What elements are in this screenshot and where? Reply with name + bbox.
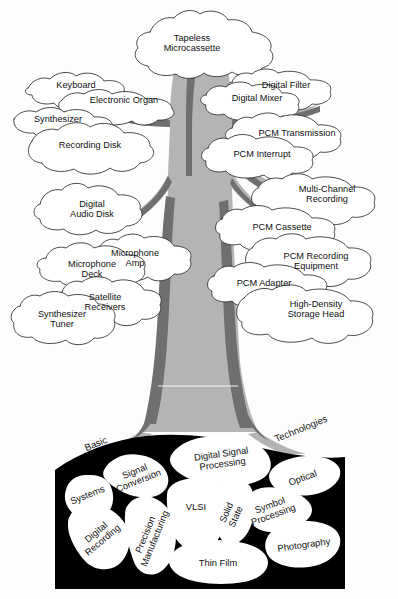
leaf-label-recording-disk: Recording Disk <box>59 140 122 150</box>
text-line: Microcassette <box>164 44 221 54</box>
text-line: Receivers <box>85 303 126 313</box>
leaf-label-high-density-storage-head: High-DensityStorage Head <box>288 299 345 319</box>
leaf-label-digital-filter: Digital Filter <box>262 80 311 90</box>
text-line: PCM Cassette <box>252 222 311 232</box>
text-line: Thin Film <box>199 557 238 568</box>
text-line: Deck <box>82 270 103 280</box>
technology-tree-figure: TapelessMicrocassetteKeyboardElectronic … <box>0 0 398 599</box>
text-line: Keyboard <box>56 80 95 90</box>
text-line: Electronic Organ <box>90 95 158 105</box>
figure-page: TapelessMicrocassetteKeyboardElectronic … <box>0 0 398 599</box>
text-line: Satellite <box>89 292 122 302</box>
text-line: PCM Interrupt <box>233 149 291 159</box>
stone-label-thin-film: Thin Film <box>199 557 238 568</box>
text-line: Tapeless <box>174 33 211 43</box>
leaf-label-keyboard: Keyboard <box>56 80 95 90</box>
text-line: Amp <box>126 259 145 269</box>
text-line: Microphone <box>68 259 116 269</box>
text-line: Technologies <box>273 412 329 443</box>
leaf-label-electronic-organ: Electronic Organ <box>90 95 158 105</box>
leaf-label-pcm-adapter: PCM Adapter <box>237 278 292 288</box>
text-line: PCM Recording <box>284 251 349 261</box>
leaf-label-multi-channel-recording: Multi-ChannelRecording <box>299 184 356 204</box>
text-line: High-Density <box>290 299 343 309</box>
text-line: Storage Head <box>288 310 345 320</box>
stone-label-vlsi: VLSI <box>186 501 206 512</box>
text-line: Microphone <box>111 248 159 258</box>
leaf-label-pcm-interrupt: PCM Interrupt <box>233 149 291 159</box>
text-line: Digital Filter <box>262 80 311 90</box>
leaf-label-digital-mixer: Digital Mixer <box>232 93 283 103</box>
text-line: PCM Adapter <box>237 278 292 288</box>
leaf-label-satellite-receivers: SatelliteReceivers <box>85 292 126 312</box>
text-line: Equipment <box>294 262 338 272</box>
leaf-label-pcm-transmission: PCM Transmission <box>258 128 335 138</box>
text-line: PCM Transmission <box>258 128 335 138</box>
text-line: Digital <box>79 199 105 209</box>
text-line: Tuner <box>50 320 74 330</box>
text-line: Recording <box>306 195 348 205</box>
root-region-label-technologies: Technologies <box>273 412 329 443</box>
leaf-label-synthesizer: Synthesizer <box>34 114 82 124</box>
text-line: Digital Mixer <box>232 93 283 103</box>
text-line: Recording Disk <box>59 140 122 150</box>
text-line: Multi-Channel <box>299 184 356 194</box>
text-line: Synthesizer <box>34 114 82 124</box>
text-line: Audio Disk <box>70 210 114 220</box>
text-line: VLSI <box>186 501 206 512</box>
leaf-label-pcm-cassette: PCM Cassette <box>252 222 311 232</box>
text-line: Synthesizer <box>38 309 86 319</box>
